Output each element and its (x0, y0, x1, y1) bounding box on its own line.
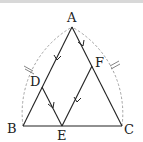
label-D: D (30, 74, 40, 89)
triangle-diagram: A B C D E F (0, 0, 143, 142)
segment-DE (42, 87, 62, 126)
label-A: A (66, 10, 77, 25)
label-B: B (7, 121, 17, 136)
label-F: F (95, 55, 104, 70)
segment-EF (62, 66, 92, 126)
arc-BA-equal-mark (24, 66, 34, 74)
parallel-arrow-FE (74, 97, 81, 102)
label-E: E (57, 128, 67, 142)
segment-AC (72, 27, 122, 126)
label-C: C (124, 122, 134, 137)
